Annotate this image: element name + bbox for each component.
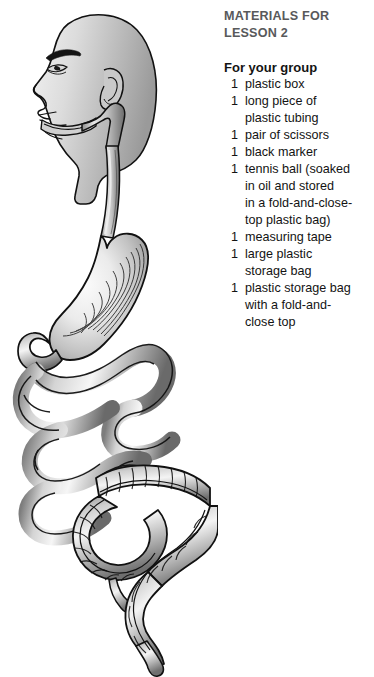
materials-item-text: storage bag [245, 263, 374, 280]
materials-list: 1plastic box1long piece of1plastic tubin… [224, 76, 374, 331]
materials-item-quantity-spacer: 1 [224, 314, 245, 331]
materials-item-text: in oil and stored [245, 178, 374, 195]
materials-item-text: long piece of [245, 93, 374, 110]
materials-item-quantity-spacer: 1 [224, 195, 245, 212]
materials-list-item: 1tennis ball (soaked [224, 161, 374, 178]
materials-item-text: plastic storage bag [245, 280, 374, 297]
materials-item-text: pair of scissors [245, 127, 374, 144]
materials-item-text: black marker [245, 144, 374, 161]
head-profile-shape [34, 15, 157, 204]
materials-heading-line-1: MATERIALS FOR [224, 8, 374, 25]
materials-item-quantity-spacer: 1 [224, 212, 245, 229]
materials-list-item: 1black marker [224, 144, 374, 161]
materials-item-quantity: 1 [224, 229, 245, 246]
materials-item-quantity: 1 [224, 161, 245, 178]
materials-list-item: 1pair of scissors [224, 127, 374, 144]
materials-item-text: plastic box [245, 76, 374, 93]
materials-item-text: tennis ball (soaked [245, 161, 374, 178]
materials-list-item: 1plastic tubing [224, 110, 374, 127]
materials-item-quantity-spacer: 1 [224, 297, 245, 314]
materials-subheading: For your group [224, 42, 374, 76]
materials-item-text: large plastic [245, 246, 374, 263]
materials-heading-line-2: LESSON 2 [224, 25, 374, 42]
materials-list-item: 1close top [224, 314, 374, 331]
materials-list-item: 1in oil and stored [224, 178, 374, 195]
materials-panel: MATERIALS FOR LESSON 2 For your group 1p… [224, 8, 374, 331]
digestive-system-illustration [0, 0, 218, 677]
materials-list-item: 1storage bag [224, 263, 374, 280]
materials-item-quantity-spacer: 1 [224, 263, 245, 280]
materials-item-text: plastic tubing [245, 110, 374, 127]
materials-list-item: 1large plastic [224, 246, 374, 263]
materials-list-item: 1measuring tape [224, 229, 374, 246]
large-intestine-group [73, 466, 218, 677]
materials-item-quantity-spacer: 1 [224, 178, 245, 195]
materials-item-text: with a fold-and- [245, 297, 374, 314]
materials-item-quantity-spacer: 1 [224, 110, 245, 127]
materials-list-item: 1plastic box [224, 76, 374, 93]
materials-list-item: 1plastic storage bag [224, 280, 374, 297]
page-root: MATERIALS FOR LESSON 2 For your group 1p… [0, 0, 374, 677]
materials-item-text: measuring tape [245, 229, 374, 246]
materials-item-text: close top [245, 314, 374, 331]
materials-list-item: 1with a fold-and- [224, 297, 374, 314]
materials-list-item: 1in a fold-and-close- [224, 195, 374, 212]
materials-list-item: 1top plastic bag) [224, 212, 374, 229]
materials-item-quantity: 1 [224, 280, 245, 297]
materials-item-quantity: 1 [224, 144, 245, 161]
materials-item-quantity: 1 [224, 93, 245, 110]
materials-item-quantity: 1 [224, 246, 245, 263]
materials-item-quantity: 1 [224, 76, 245, 93]
materials-list-item: 1long piece of [224, 93, 374, 110]
materials-item-quantity: 1 [224, 127, 245, 144]
materials-item-text: in a fold-and-close- [245, 195, 374, 212]
materials-item-text: top plastic bag) [245, 212, 374, 229]
head-profile-group [34, 15, 157, 204]
